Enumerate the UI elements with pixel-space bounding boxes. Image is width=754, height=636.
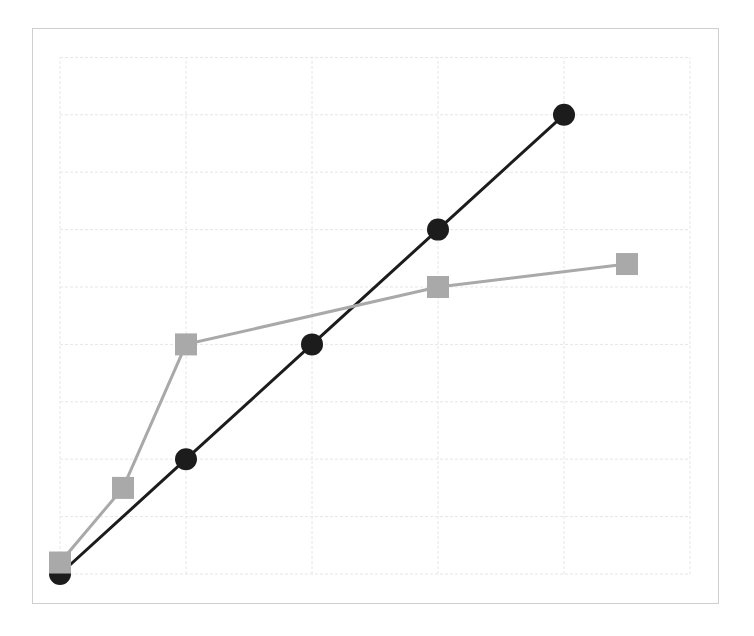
square-marker xyxy=(112,477,134,499)
square-marker xyxy=(616,253,638,275)
line-chart xyxy=(0,0,754,636)
circle-marker xyxy=(175,448,197,470)
grid-lines xyxy=(60,57,690,574)
square-marker xyxy=(427,276,449,298)
series-gray-squares xyxy=(49,253,638,573)
circle-marker xyxy=(301,333,323,355)
square-marker xyxy=(49,552,71,574)
series-line xyxy=(60,264,627,562)
square-marker xyxy=(175,333,197,355)
circle-marker xyxy=(427,219,449,241)
circle-marker xyxy=(553,104,575,126)
